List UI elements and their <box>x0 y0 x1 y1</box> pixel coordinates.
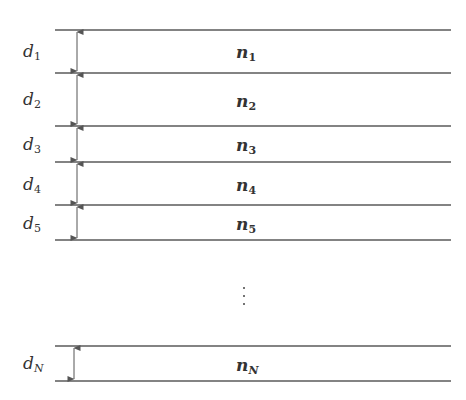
index-label-1: n1 <box>236 44 256 63</box>
thickness-label-n: dN <box>23 355 44 374</box>
index-label-3: n3 <box>236 137 256 156</box>
thickness-label-3: d3 <box>23 136 41 155</box>
index-label-4: n4 <box>236 177 256 196</box>
layer-stack-drawing <box>0 0 466 400</box>
index-label-2: n2 <box>236 93 256 112</box>
vertical-ellipsis <box>243 287 247 311</box>
thickness-label-1: d1 <box>23 43 41 62</box>
thickness-label-4: d4 <box>23 176 41 195</box>
thickness-label-5: d5 <box>23 215 41 234</box>
index-label-n: nN <box>236 357 258 376</box>
index-label-5: n5 <box>236 216 256 235</box>
thickness-label-2: d2 <box>23 91 41 110</box>
